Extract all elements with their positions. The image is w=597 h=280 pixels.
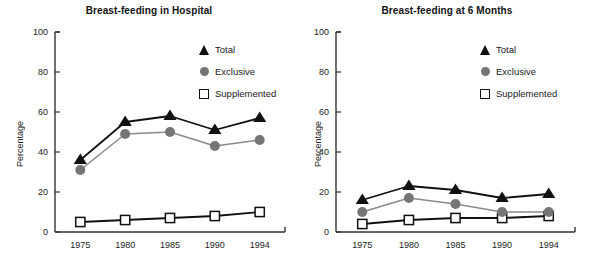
legend-item-total-hospital: Total <box>199 44 235 55</box>
data-point-exclusive <box>497 207 507 217</box>
circle-icon <box>480 66 491 77</box>
x-tick-label: 1990 <box>492 240 512 250</box>
data-point-total <box>402 179 415 190</box>
square-icon <box>480 88 491 99</box>
legend-label-total: Total <box>496 44 516 55</box>
y-tick-label: 0 <box>324 227 329 237</box>
figure-container: Breast-feeding in Hospital Percentage 02… <box>0 0 597 280</box>
legend-item-exclusive-six-months: Exclusive <box>480 66 536 77</box>
x-tick-label: 1985 <box>160 240 180 250</box>
data-point-total <box>253 111 266 122</box>
legend-label-exclusive: Exclusive <box>215 66 255 77</box>
legend-label-exclusive: Exclusive <box>496 66 536 77</box>
circle-icon <box>199 66 210 77</box>
y-tick-label: 0 <box>43 227 48 237</box>
y-tick-label: 80 <box>38 67 48 77</box>
y-tick-label: 100 <box>314 27 329 37</box>
data-point-supplemented <box>451 213 460 222</box>
legend-item-supplemented-six-months: Supplemented <box>480 88 557 99</box>
data-point-exclusive <box>357 207 367 217</box>
legend-label-total: Total <box>215 44 235 55</box>
data-point-exclusive <box>544 207 554 217</box>
data-point-supplemented <box>121 215 130 224</box>
y-tick-label: 60 <box>38 107 48 117</box>
data-point-supplemented <box>358 219 367 228</box>
series-markers-hospital <box>74 109 267 226</box>
data-point-exclusive <box>165 127 175 137</box>
data-point-exclusive <box>255 135 265 145</box>
chart-panel-six-months: Breast-feeding at 6 Months Percentage 02… <box>298 0 596 280</box>
legend-item-total-six-months: Total <box>480 44 516 55</box>
data-point-supplemented <box>255 207 264 216</box>
data-point-total <box>163 109 176 120</box>
y-tick-label: 100 <box>33 27 48 37</box>
x-tick-label: 1975 <box>352 240 372 250</box>
data-point-supplemented <box>210 211 219 220</box>
series-line-total <box>80 116 259 160</box>
plot-area-six-months: 020406080100 19751980198519901994 <box>298 0 596 280</box>
y-tick-label: 20 <box>319 187 329 197</box>
data-point-exclusive <box>404 193 414 203</box>
y-tick-label: 60 <box>319 107 329 117</box>
y-tick-labels-six-months: 020406080100 <box>314 27 329 237</box>
x-tick-label: 1980 <box>115 240 135 250</box>
data-point-supplemented <box>404 215 413 224</box>
y-tick-label: 20 <box>38 187 48 197</box>
x-tick-label: 1980 <box>399 240 419 250</box>
y-tick-label: 80 <box>319 67 329 77</box>
y-tick-label: 40 <box>319 147 329 157</box>
x-tick-label: 1975 <box>70 240 90 250</box>
x-tick-label: 1990 <box>205 240 225 250</box>
triangle-icon <box>199 44 210 55</box>
y-tick-label: 40 <box>38 147 48 157</box>
plot-area-hospital: 020406080100 19751980198519901994 <box>0 0 298 280</box>
x-tick-label: 1985 <box>445 240 465 250</box>
x-tick-label: 1994 <box>250 240 270 250</box>
x-tick-labels-hospital: 19751980198519901994 <box>70 240 269 250</box>
x-tick-labels-six-months: 19751980198519901994 <box>352 240 558 250</box>
legend-label-supplemented: Supplemented <box>496 88 557 99</box>
data-point-exclusive <box>75 165 85 175</box>
legend-item-exclusive-hospital: Exclusive <box>199 66 255 77</box>
data-point-total <box>542 187 555 198</box>
legend-item-supplemented-hospital: Supplemented <box>199 88 276 99</box>
legend-label-supplemented: Supplemented <box>215 88 276 99</box>
y-tick-labels-hospital: 020406080100 <box>33 27 48 237</box>
chart-panel-hospital: Breast-feeding in Hospital Percentage 02… <box>0 0 298 280</box>
data-point-exclusive <box>120 129 130 139</box>
data-point-exclusive <box>451 199 461 209</box>
square-icon <box>199 88 210 99</box>
data-point-supplemented <box>76 217 85 226</box>
data-point-exclusive <box>210 141 220 151</box>
triangle-icon <box>480 44 491 55</box>
data-point-supplemented <box>165 213 174 222</box>
x-tick-label: 1994 <box>539 240 559 250</box>
